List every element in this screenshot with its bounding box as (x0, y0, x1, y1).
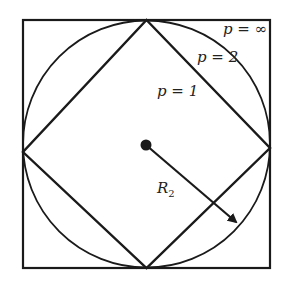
label-p-infinity: p = ∞ (223, 20, 267, 38)
label-p-2: p = 2 (197, 48, 238, 66)
p-norm-diagram: p = ∞ p = 2 p = 1 R2 (0, 0, 282, 281)
label-radius-subscript: 2 (168, 188, 174, 199)
label-radius: R2 (156, 179, 175, 199)
label-p-1: p = 1 (157, 82, 198, 100)
label-radius-main: R (156, 179, 168, 197)
